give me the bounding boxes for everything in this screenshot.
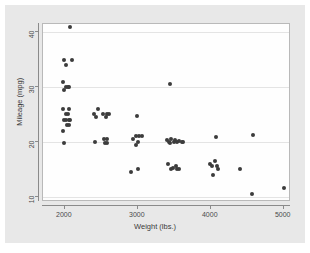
data-point (70, 58, 74, 62)
data-point (67, 123, 71, 127)
data-point (129, 170, 133, 174)
data-point (105, 137, 109, 141)
y-axis-tick (35, 86, 38, 87)
x-axis-line (42, 205, 290, 206)
x-axis-tick-label: 4000 (202, 211, 218, 218)
data-point (136, 167, 140, 171)
data-point (250, 192, 254, 196)
plot-region: 10203040 2000300040005000 Weight (lbs.) … (5, 5, 305, 243)
data-point (105, 141, 109, 145)
data-point (62, 141, 66, 145)
y-axis-title: Mileage (mpg) (16, 96, 24, 126)
data-point (282, 186, 286, 190)
data-point (62, 88, 66, 92)
data-point (210, 164, 214, 168)
data-point (166, 162, 170, 166)
x-axis-tick-label: 2000 (56, 211, 72, 218)
data-point (67, 107, 71, 111)
data-point (140, 134, 144, 138)
y-axis-tick (35, 196, 38, 197)
data-point (68, 25, 72, 29)
data-point (213, 159, 217, 163)
x-axis-tick (64, 206, 65, 209)
x-axis-title: Weight (lbs.) (5, 223, 305, 231)
data-point (216, 167, 220, 171)
data-point (214, 135, 218, 139)
data-point (66, 112, 70, 116)
data-point (64, 63, 68, 67)
data-point (61, 129, 65, 133)
gridline (43, 32, 289, 33)
y-axis-tick-label: 30 (28, 85, 35, 107)
gridline (43, 87, 289, 88)
data-point (61, 80, 65, 84)
y-axis-line (38, 23, 39, 201)
x-axis-tick (283, 206, 284, 209)
gridline (43, 142, 289, 143)
data-point (238, 167, 242, 171)
data-point (94, 115, 98, 119)
data-point (168, 82, 172, 86)
data-point (134, 143, 138, 147)
data-point (251, 133, 255, 137)
scatter-plot-screenshot: 10203040 2000300040005000 Weight (lbs.) … (0, 0, 310, 253)
gridline (43, 197, 289, 198)
plot-area (42, 23, 290, 201)
x-axis-tick (137, 206, 138, 209)
data-point (135, 114, 139, 118)
y-axis-tick-label: 10 (28, 195, 35, 217)
data-point (177, 167, 181, 171)
y-axis-tick-label: 40 (28, 31, 35, 53)
y-axis-tick (35, 31, 38, 32)
data-point (96, 107, 100, 111)
graph-region: 10203040 2000300040005000 Weight (lbs.) … (5, 5, 305, 243)
y-axis-tick-label: 20 (28, 140, 35, 162)
data-point (62, 58, 66, 62)
x-axis-tick (210, 206, 211, 209)
x-axis-tick-label: 5000 (275, 211, 291, 218)
data-point (67, 85, 71, 89)
data-point (181, 140, 185, 144)
data-point (211, 173, 215, 177)
data-point (93, 140, 97, 144)
data-point (68, 118, 72, 122)
y-axis-tick (35, 141, 38, 142)
data-point (107, 112, 111, 116)
data-point (61, 107, 65, 111)
x-axis-tick-label: 3000 (129, 211, 145, 218)
